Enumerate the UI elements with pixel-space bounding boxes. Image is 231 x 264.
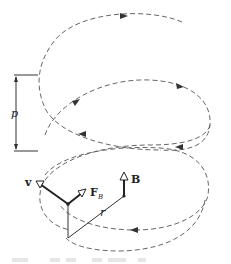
- helix-path-middle: [45, 80, 210, 150]
- axis-center-dot: [122, 194, 125, 197]
- velocity-label: v: [24, 176, 32, 189]
- radius-line: [68, 196, 124, 238]
- path-arrow-bottom: [130, 227, 138, 233]
- path-arrow-middle-back: [78, 131, 86, 137]
- velocity-vector: [40, 184, 68, 204]
- helix-path-top: [39, 14, 182, 150]
- helix-diagram: p r v F B B: [0, 0, 231, 264]
- field-arrowhead: [120, 172, 128, 180]
- pitch-arrow-up: [14, 76, 18, 82]
- helix-path-bottom: [45, 147, 209, 230]
- helix-path-bottom-tail: [66, 200, 205, 251]
- pitch-label: p: [11, 107, 18, 120]
- radius-label: r: [100, 206, 106, 219]
- force-label: F: [90, 186, 98, 199]
- path-arrow-middle-left: [72, 99, 80, 106]
- pitch-arrow-down: [14, 144, 18, 150]
- path-arrow-upper-right: [176, 83, 184, 89]
- path-arrow-middle-right: [175, 144, 183, 150]
- particle-dot: [66, 202, 70, 206]
- force-subscript: B: [97, 193, 103, 201]
- caption-faded: [12, 258, 146, 262]
- field-label: B: [131, 173, 140, 186]
